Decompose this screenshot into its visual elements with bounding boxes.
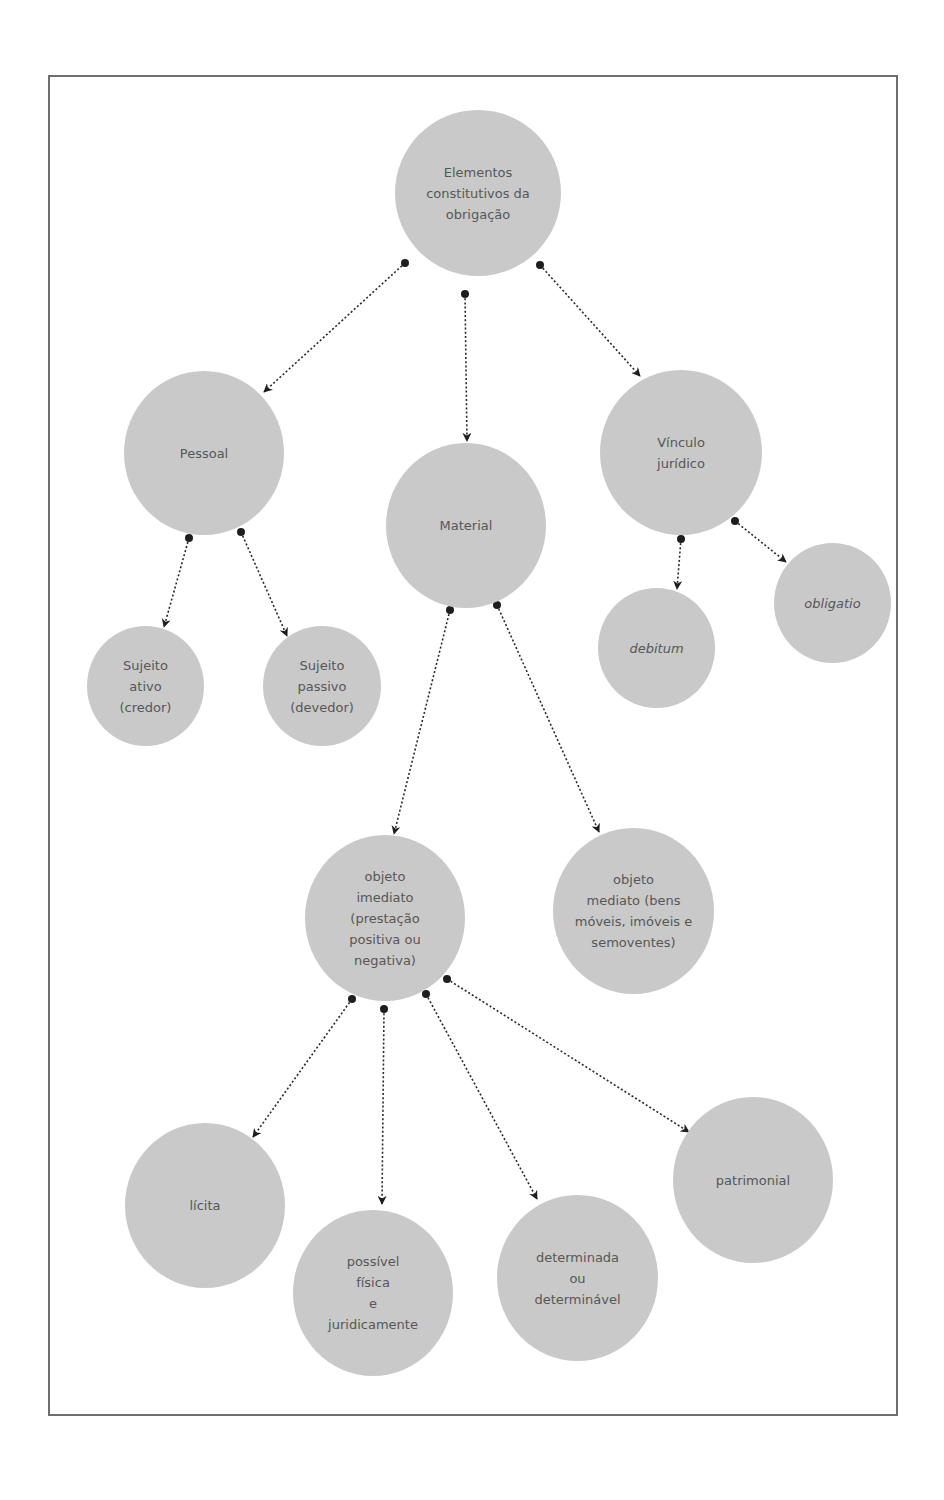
node-objeto-imediato: objeto imediato (prestação positiva ou n… <box>305 835 465 1001</box>
node-sujeito-passivo: Sujeito passivo (devedor) <box>263 626 381 746</box>
edge-material-imediato <box>394 610 450 834</box>
node-objeto-mediato: objeto mediato (bens móveis, imóveis e s… <box>553 828 714 994</box>
node-obligatio-label: obligatio <box>804 593 860 614</box>
node-material: Material <box>386 443 546 608</box>
node-possivel-label: possível física e juridicamente <box>328 1251 418 1335</box>
edge-imediato-determinada <box>426 994 537 1199</box>
node-patrimonial-label: patrimonial <box>716 1170 790 1191</box>
node-determinada: determinada ou determinável <box>497 1195 658 1361</box>
edge-pessoal-ativo <box>164 538 189 627</box>
node-material-label: Material <box>440 515 493 536</box>
edge-root-vinculo <box>540 265 640 376</box>
node-pessoal-label: Pessoal <box>180 443 228 464</box>
node-vinculo-label: Vínculo jurídico <box>657 432 705 474</box>
node-sujeito-ativo-label: Sujeito ativo (credor) <box>120 655 172 718</box>
node-root: Elementos constitutivos da obrigação <box>395 110 561 276</box>
node-objeto-mediato-label: objeto mediato (bens móveis, imóveis e s… <box>575 869 692 953</box>
edge-imediato-licita <box>253 999 352 1137</box>
edge-root-material <box>465 294 467 441</box>
edge-material-mediato <box>497 605 599 832</box>
edge-pessoal-passivo <box>241 532 287 636</box>
edge-imediato-patrimonial <box>447 979 689 1132</box>
node-sujeito-ativo: Sujeito ativo (credor) <box>87 626 204 746</box>
node-obligatio: obligatio <box>774 543 891 663</box>
node-licita-label: lícita <box>189 1195 220 1216</box>
node-objeto-imediato-label: objeto imediato (prestação positiva ou n… <box>349 866 420 971</box>
edge-vinculo-obligatio <box>735 521 786 562</box>
edge-imediato-possivel <box>382 1009 384 1204</box>
node-root-label: Elementos constitutivos da obrigação <box>426 162 530 225</box>
node-licita: lícita <box>125 1123 285 1288</box>
node-vinculo: Vínculo jurídico <box>600 370 762 535</box>
node-possivel: possível física e juridicamente <box>293 1210 453 1376</box>
node-sujeito-passivo-label: Sujeito passivo (devedor) <box>290 655 354 718</box>
node-debitum-label: debitum <box>629 638 683 659</box>
node-debitum: debitum <box>598 588 715 708</box>
edge-vinculo-debitum <box>677 539 681 589</box>
edge-root-pessoal <box>264 263 405 392</box>
node-pessoal: Pessoal <box>124 371 284 535</box>
node-determinada-label: determinada ou determinável <box>534 1247 620 1310</box>
node-patrimonial: patrimonial <box>673 1097 833 1263</box>
